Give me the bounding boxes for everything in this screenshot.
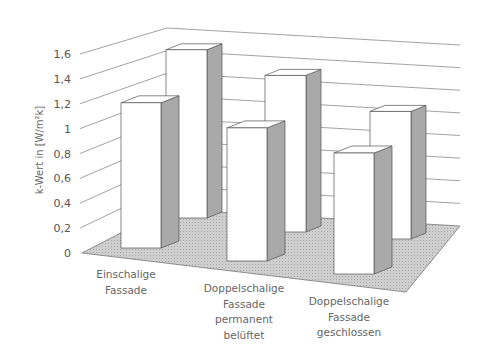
category-label-line: geschlossen <box>317 326 381 338</box>
front-row-bars <box>121 96 392 274</box>
bar-side-face <box>207 44 222 218</box>
y-tick-label: 0,4 <box>54 197 72 210</box>
bar <box>227 121 285 261</box>
category-label: EinschaligeFassade <box>96 268 156 296</box>
y-tick-label: 0 <box>64 247 71 260</box>
bar-side-face <box>306 69 321 232</box>
category-label-line: Fassade <box>223 298 265 310</box>
bar-side-face <box>374 146 392 274</box>
bar-side-face <box>161 96 179 248</box>
bar-side-face <box>411 105 426 239</box>
category-label: DoppelschaligeFassadepermanentbelüftet <box>204 282 285 341</box>
category-label: DoppelschaligeFassadegeschlossen <box>309 295 390 338</box>
k-value-3d-column-chart: 00,20,40,60,811,21,41,6 k-Wert in [W/m²k… <box>0 0 491 356</box>
category-label-line: Einschalige <box>96 268 156 280</box>
bar-front-face <box>227 128 267 261</box>
category-label-line: belüftet <box>224 329 265 341</box>
bar-front-face <box>334 153 374 274</box>
y-tick-label: 1,6 <box>54 48 72 61</box>
y-axis-title: k-Wert in [W/m²k] <box>34 106 45 195</box>
y-axis-ticks: 00,20,40,60,811,21,41,6 <box>54 48 72 260</box>
bar <box>334 146 392 274</box>
category-label-line: Doppelschalige <box>309 295 390 307</box>
bar <box>121 96 179 248</box>
bar-side-face <box>267 121 285 261</box>
y-tick-label: 1,4 <box>54 73 72 86</box>
category-label-line: Fassade <box>105 284 147 296</box>
category-label-line: permanent <box>215 313 273 325</box>
gridline <box>80 28 460 54</box>
y-tick-label: 1 <box>64 123 71 136</box>
bar-front-face <box>121 103 161 248</box>
category-label-line: Doppelschalige <box>204 282 285 294</box>
category-label-line: Fassade <box>328 311 370 323</box>
y-tick-label: 0,8 <box>54 148 72 161</box>
y-tick-label: 1,2 <box>54 98 72 111</box>
y-tick-label: 0,2 <box>54 222 72 235</box>
y-tick-label: 0,6 <box>54 172 72 185</box>
